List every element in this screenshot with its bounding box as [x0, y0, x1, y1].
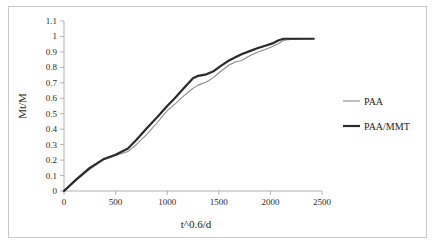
line-chart: 00.10.20.30.40.50.60.70.80.911.1 0500100…	[0, 0, 435, 251]
x-tick-label: 2500	[313, 197, 332, 207]
legend-label-paa: PAA	[364, 96, 384, 107]
x-tick-label: 0	[62, 197, 67, 207]
y-axis-group: 00.10.20.30.40.50.60.70.80.911.1	[46, 16, 64, 196]
y-tick-label: 0.8	[46, 62, 58, 72]
y-tick-label: 0.5	[46, 109, 58, 119]
y-tick-label: 0.4	[46, 124, 58, 134]
x-axis-title: t^0.6/d	[181, 218, 212, 230]
x-tick-label: 2000	[261, 197, 280, 207]
y-tick-label: 0.1	[46, 171, 57, 181]
y-tick-label: 1.1	[46, 16, 57, 26]
legend-label-paa-mmt: PAA/MMT	[364, 121, 410, 132]
y-tick-label: 0	[53, 186, 58, 196]
x-tick-labels: 05001000150020002500	[62, 197, 332, 207]
y-tick-label: 0.3	[46, 140, 58, 150]
y-tick-label: 1	[53, 31, 58, 41]
y-tick-label: 0.9	[46, 47, 58, 57]
y-axis-title: Mt/M	[16, 93, 28, 119]
x-tick-label: 1500	[210, 197, 229, 207]
y-tick-labels: 00.10.20.30.40.50.60.70.80.911.1	[46, 16, 58, 196]
series-paths	[64, 39, 314, 191]
x-axis-group: 05001000150020002500	[62, 191, 332, 207]
x-tick-marks	[64, 191, 322, 195]
y-tick-marks	[60, 21, 64, 191]
x-tick-label: 500	[109, 197, 123, 207]
y-tick-label: 0.6	[46, 93, 58, 103]
chart-legend: PAAPAA/MMT	[343, 96, 410, 132]
x-tick-label: 1000	[158, 197, 177, 207]
series-line-paa-mmt	[64, 39, 314, 191]
y-tick-label: 0.2	[46, 155, 57, 165]
y-tick-label: 0.7	[46, 78, 58, 88]
series-line-paa	[64, 39, 314, 191]
